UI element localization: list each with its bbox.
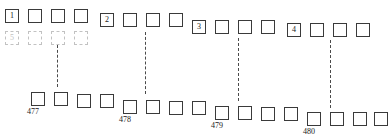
- bottom-block-caption: 478: [119, 115, 131, 124]
- top-block: [215, 20, 229, 34]
- bottom-block: [169, 101, 183, 115]
- separator-2: [145, 32, 146, 94]
- ghost-block-marker-5: 5: [5, 31, 19, 45]
- bottom-block: [374, 112, 388, 126]
- bottom-block-marker-479: [215, 106, 229, 120]
- top-block: [169, 13, 183, 27]
- bottom-block-marker-478: [123, 100, 137, 114]
- bottom-block: [353, 112, 367, 126]
- block-index-label: 2: [101, 16, 113, 24]
- ghost-block: [28, 31, 42, 45]
- top-block: [123, 13, 137, 27]
- bottom-block: [77, 94, 91, 108]
- top-block: [238, 20, 252, 34]
- top-block: [28, 9, 42, 23]
- top-block: [356, 23, 370, 37]
- separator-4: [330, 40, 331, 108]
- bottom-block: [192, 101, 206, 115]
- top-block-marker-3: 3: [192, 20, 206, 34]
- bottom-block: [261, 107, 275, 121]
- bottom-block: [238, 106, 252, 120]
- top-block-marker-4: 4: [287, 23, 301, 37]
- bottom-block-caption: 477: [27, 107, 39, 116]
- bottom-block: [54, 92, 68, 106]
- block-index-label: 1: [6, 12, 18, 20]
- top-block: [310, 23, 324, 37]
- bottom-block: [330, 112, 344, 126]
- ghost-block: [74, 31, 88, 45]
- bottom-block-marker-477: [31, 92, 45, 106]
- top-block-marker-1: 1: [5, 9, 19, 23]
- bottom-block-caption: 480: [303, 127, 315, 136]
- bottom-block: [284, 107, 298, 121]
- separator-3: [238, 38, 239, 101]
- top-block: [261, 20, 275, 34]
- bottom-block-caption: 479: [211, 121, 223, 130]
- bottom-block-marker-480: [307, 112, 321, 126]
- block-index-label: 4: [288, 26, 300, 34]
- ghost-block: [51, 31, 65, 45]
- top-block-marker-2: 2: [100, 13, 114, 27]
- bottom-block: [100, 94, 114, 108]
- top-block: [51, 9, 65, 23]
- block-index-label: 3: [193, 23, 205, 31]
- bottom-block: [146, 100, 160, 114]
- ghost-block-index-label: 5: [6, 34, 18, 42]
- top-block: [333, 23, 347, 37]
- top-block: [74, 9, 88, 23]
- top-block: [146, 13, 160, 27]
- separator-1: [57, 45, 58, 87]
